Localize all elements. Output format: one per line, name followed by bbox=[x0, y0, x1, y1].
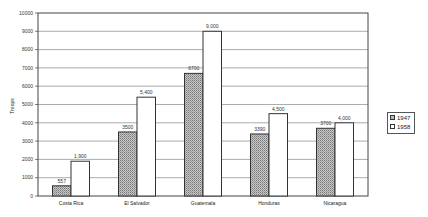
y-tick-label: 1000 bbox=[22, 174, 33, 180]
data-label: 1,900 bbox=[74, 153, 87, 159]
legend-label: 1947 bbox=[397, 115, 410, 121]
y-tick-label: 5000 bbox=[22, 101, 33, 107]
bar-1958-guatemala bbox=[203, 31, 222, 196]
legend-label: 1958 bbox=[397, 124, 410, 130]
x-category-label: Guatemala bbox=[191, 200, 216, 206]
x-category-label: El Salvador bbox=[124, 200, 150, 206]
data-label: 3390 bbox=[254, 126, 265, 132]
bar-1958-honduras bbox=[269, 114, 288, 196]
bar-1958-nicaragua bbox=[335, 123, 354, 196]
bar-1958-costa-rica bbox=[71, 161, 90, 196]
data-label: 4,000 bbox=[338, 115, 351, 121]
bars: 5571,90035005,40067009,00033904,50037004… bbox=[53, 23, 354, 196]
data-label: 4,500 bbox=[272, 106, 285, 112]
legend-item-1947: 1947 bbox=[388, 113, 414, 122]
legend-item-1958: 1958 bbox=[388, 122, 414, 131]
bar-chart: 0100020003000400050006000700080009000100… bbox=[0, 0, 428, 217]
data-label: 557 bbox=[58, 178, 67, 184]
x-category-label: Costa Rica bbox=[59, 200, 84, 206]
y-tick-label: 7000 bbox=[22, 65, 33, 71]
data-label: 3700 bbox=[320, 120, 331, 126]
y-tick-label: 4000 bbox=[22, 120, 33, 126]
x-category-label: Nicaragua bbox=[324, 200, 347, 206]
y-tick-label: 8000 bbox=[22, 46, 33, 52]
data-label: 9,000 bbox=[206, 23, 219, 29]
bar-1947-el-salvador bbox=[119, 132, 138, 196]
y-tick-label: 6000 bbox=[22, 83, 33, 89]
data-label: 5,400 bbox=[140, 89, 153, 95]
x-axis-categories: Costa RicaEl SalvadorGuatemalaHondurasNi… bbox=[59, 200, 347, 206]
x-category-label: Honduras bbox=[258, 200, 280, 206]
bar-1947-guatemala bbox=[185, 73, 204, 196]
legend: 1947 1958 bbox=[387, 112, 415, 134]
y-axis-ticks: 0100020003000400050006000700080009000100… bbox=[19, 10, 38, 199]
y-tick-label: 9000 bbox=[22, 28, 33, 34]
data-label: 6700 bbox=[188, 65, 199, 71]
bar-1947-honduras bbox=[251, 134, 270, 196]
y-tick-label: 2000 bbox=[22, 156, 33, 162]
y-tick-label: 3000 bbox=[22, 138, 33, 144]
bar-1947-nicaragua bbox=[317, 128, 336, 196]
legend-swatch-1947 bbox=[390, 115, 395, 120]
legend-swatch-1958 bbox=[390, 124, 395, 129]
bar-1947-costa-rica bbox=[53, 186, 72, 196]
y-axis-label: Troops bbox=[9, 98, 15, 114]
bar-1958-el-salvador bbox=[137, 97, 156, 196]
y-tick-label: 0 bbox=[30, 193, 33, 199]
data-label: 3500 bbox=[122, 124, 133, 130]
y-tick-label: 10000 bbox=[19, 10, 33, 16]
